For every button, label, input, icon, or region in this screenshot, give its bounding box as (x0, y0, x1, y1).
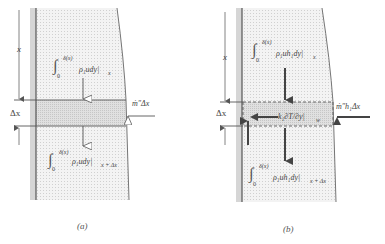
caption-b: (b) (283, 225, 294, 234)
wall-strip-b (236, 8, 242, 202)
dx-label-a: Δx (10, 109, 20, 118)
x-axis-label-a: x (17, 45, 21, 54)
condensate-flux-label-a: ṁ″Δx (132, 100, 149, 108)
control-band-a (36, 100, 126, 126)
condensate-enthalpy-label-b: ṁ″h₁Δx (336, 103, 360, 111)
figure-canvas (0, 0, 385, 244)
caption-a: (a) (77, 222, 88, 231)
x-axis-label-b: x (223, 53, 227, 62)
dx-label-b: Δx (216, 109, 226, 118)
wall-strip-a (30, 8, 36, 200)
